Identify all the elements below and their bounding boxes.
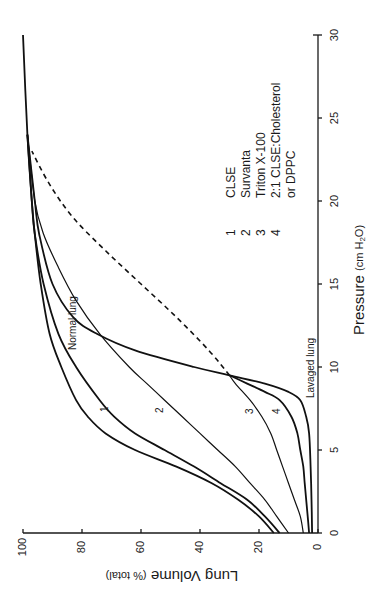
pressure-volume-chart: 051015202530020406080100Pressure (cm H2O…: [0, 0, 386, 596]
normal-lung-curve: [23, 35, 274, 533]
curve-1-label: 1: [99, 406, 110, 412]
legend-label: Survanta: [239, 150, 253, 198]
labels: 051015202530020406080100Pressure (cm H2O…: [16, 29, 367, 585]
volume-tick-label: 40: [193, 541, 205, 553]
pressure-tick-label: 20: [328, 195, 340, 207]
pressure-tick-label: 30: [328, 29, 340, 41]
volume-tick-label: 80: [75, 541, 87, 553]
curve-3-label: 3: [244, 408, 255, 414]
legend-number: 4: [269, 229, 283, 236]
legend-number: 2: [239, 229, 253, 236]
volume-tick-label: 20: [252, 541, 264, 553]
cholesterol-dppc-curve: [230, 375, 310, 533]
pressure-tick-label: 15: [328, 278, 340, 290]
legend-number: 1: [224, 229, 238, 236]
volume-axis-title: Lung Volume (% total): [106, 568, 239, 585]
pressure-tick-label: 25: [328, 112, 340, 124]
lavaged-lung-annotation: Lavaged lung: [305, 338, 316, 398]
volume-tick-label: 0: [311, 544, 323, 550]
legend-label: CLSE: [224, 167, 238, 198]
legend-label: Triton X-100: [254, 132, 268, 198]
pressure-tick-label: 0: [328, 530, 340, 536]
legend-number: 3: [254, 229, 268, 236]
pressure-axis-title: Pressure (cm H2O): [350, 225, 367, 335]
curve-2-label: 2: [154, 407, 165, 413]
volume-tick-label: 60: [134, 541, 146, 553]
pressure-tick-label: 5: [328, 447, 340, 453]
legend-label: or DPPC: [284, 150, 298, 198]
legend-label: 2:1 CLSE:Cholesterol: [269, 83, 283, 198]
triton-curve: [230, 375, 304, 533]
pressure-tick-label: 10: [328, 361, 340, 373]
normal-lung-annotation: Normal lung: [67, 296, 78, 350]
curve-4-label: 4: [271, 408, 282, 414]
volume-tick-label: 100: [16, 538, 28, 556]
